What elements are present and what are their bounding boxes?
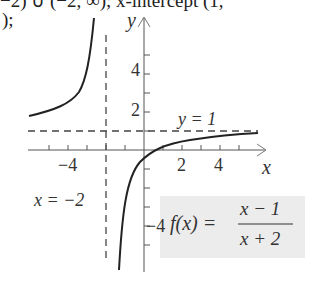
y-tick-label-4: 4 — [131, 60, 140, 80]
function-graph: −4 2 4 4 2 −4 x y y = 1 x = −2 f(x) = x … — [0, 0, 309, 281]
horizontal-asymptote-label: y = 1 — [176, 109, 216, 129]
x-tick-label-4: 4 — [214, 155, 223, 175]
left-branch-curve — [29, 18, 94, 116]
right-branch-curve — [119, 133, 258, 270]
formula-lhs: f(x) = — [170, 212, 216, 235]
formula-denominator: x + 2 — [239, 228, 281, 249]
y-tick-label-neg4: −4 — [146, 216, 165, 236]
y-axis-label: y — [125, 9, 136, 32]
y-tick-label-2: 2 — [131, 100, 140, 120]
x-axis-label: x — [261, 156, 271, 178]
x-tick-label-2: 2 — [177, 155, 186, 175]
formula-numerator: x − 1 — [239, 198, 280, 219]
x-tick-label-neg4: −4 — [58, 155, 77, 175]
vertical-asymptote-label: x = −2 — [33, 190, 84, 210]
